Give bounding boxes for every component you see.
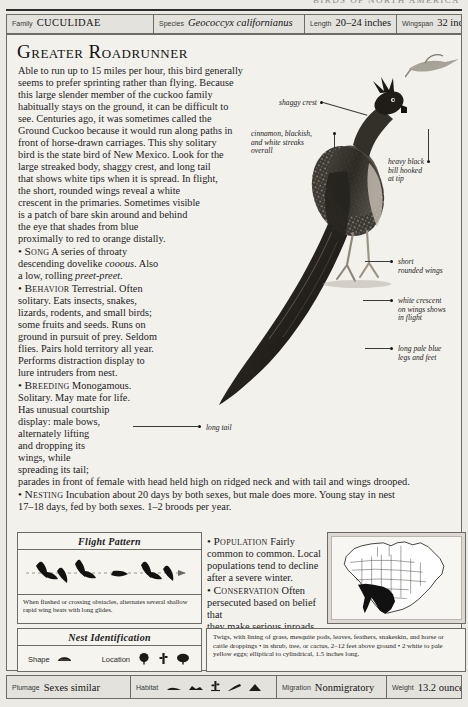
range-map bbox=[331, 536, 462, 620]
desc-line-5: see. Centuries ago, it was sometimes cal… bbox=[18, 113, 246, 125]
running-head: BIRDS OF NORTH AMERICA bbox=[0, 0, 468, 12]
spec-value-weight: 13.2 ounces bbox=[418, 682, 461, 693]
desc-line-1: Able to run up to 15 miles per hour, thi… bbox=[18, 65, 246, 77]
annotation-wings: short rounded wings bbox=[398, 258, 460, 275]
section-label-population: Population bbox=[213, 535, 267, 547]
annotation-leader-streaks bbox=[334, 135, 335, 169]
field-guide-page: BIRDS OF NORTH AMERICA Family CUCULIDAE … bbox=[0, 0, 468, 707]
section-behavior-line-4: some fruits and seeds. Runs on bbox=[18, 319, 218, 331]
desc-line-7: front of horse-drawn carriages. This shy… bbox=[18, 137, 246, 149]
desc-line-3: this large slender member of the cuckoo … bbox=[18, 89, 246, 101]
behavior-text-1: Terrestrial. Often bbox=[69, 283, 142, 294]
section-breeding-line-1: • Breeding Monogamous. bbox=[18, 379, 178, 392]
annotation-legs: long pale blue legs and feet bbox=[398, 345, 462, 362]
annotation-bill: heavy black bill hooked at tip bbox=[388, 158, 450, 184]
nest-identification-row: Shape Location bbox=[18, 646, 201, 672]
spec-cell-length: Length 20–24 inches bbox=[305, 15, 397, 33]
section-label-behavior: Behavior bbox=[24, 282, 69, 294]
spec-key-family: Family bbox=[12, 20, 33, 27]
annotation-streaks: cinnamon, blackish, and white streaks ov… bbox=[251, 130, 329, 156]
spec-cell-migration: Migration Nonmigratory bbox=[277, 676, 387, 698]
spec-value-wingspan: 32 inches bbox=[437, 17, 461, 28]
spec-key-length: Length bbox=[310, 20, 331, 27]
section-conservation-line-1: • Conservation Often bbox=[207, 584, 325, 597]
annotation-leader-long-tail bbox=[133, 426, 199, 427]
nest-shape-label: Shape bbox=[28, 655, 50, 664]
section-behavior-line-6: flies. Pairs hold territory all year. bbox=[18, 343, 218, 355]
song-bullet: • bbox=[18, 245, 22, 257]
habitat-scrub-icon bbox=[188, 678, 204, 696]
song-call-preet: preet-preet bbox=[75, 270, 120, 281]
flight-pattern-title: Flight Pattern bbox=[18, 533, 201, 550]
habitat-grassland-icon bbox=[227, 678, 242, 696]
nest-location-tree-icon bbox=[176, 652, 190, 667]
section-breeding-line-7: wings, while bbox=[18, 452, 136, 464]
desc-line-15: proximally to red to orange distally. bbox=[18, 233, 218, 245]
running-head-text: BIRDS OF NORTH AMERICA bbox=[313, 0, 460, 5]
breeding-text-1: Monogamous. bbox=[70, 380, 132, 391]
nest-identification-panel: Nest Identification Shape Location bbox=[17, 628, 202, 672]
section-label-conservation: Conservation bbox=[213, 584, 279, 596]
header-rule bbox=[6, 9, 462, 11]
section-population-line-3: populations tend to decline bbox=[207, 560, 325, 572]
section-breeding-line-3: Has unusual courtship bbox=[18, 404, 136, 416]
desc-line-2: seems to prefer sprinting rather than fl… bbox=[18, 77, 246, 89]
section-behavior-line-8: lure intruders from nest. bbox=[18, 367, 218, 379]
annotation-leader-bill bbox=[428, 129, 429, 161]
range-map-panel bbox=[327, 532, 466, 624]
nest-identification-title: Nest Identification bbox=[18, 629, 201, 646]
desc-line-10: that shows white tips when it is spread.… bbox=[18, 173, 246, 185]
behavior-bullet: • bbox=[18, 282, 22, 294]
annotation-crescent: white crescent on wings shows in flight bbox=[398, 297, 464, 323]
annotation-long-tail: long tail bbox=[206, 424, 252, 433]
section-breeding-line-6: and dropping its bbox=[18, 440, 136, 452]
section-population-line-1: • Population Fairly bbox=[207, 535, 325, 548]
nest-identification-description: Twigs, with lining of grass, mesquite po… bbox=[206, 628, 466, 672]
nesting-text-1: Incubation about 20 days by both sexes, … bbox=[63, 489, 395, 500]
spec-key-plumage: Plumage bbox=[12, 684, 40, 691]
population-bullet: • bbox=[207, 535, 211, 547]
flight-pattern-panel: Flight Pattern bbox=[17, 532, 202, 624]
spec-value-migration: Nonmigratory bbox=[315, 682, 375, 693]
section-behavior-line-1: • Behavior Terrestrial. Often bbox=[18, 282, 218, 295]
spec-cell-habitat: Habitat bbox=[131, 676, 277, 698]
section-behavior-line-5: ground in pursuit of prey. Seldom bbox=[18, 331, 218, 343]
nest-shape-icon bbox=[57, 653, 72, 665]
section-population-line-4: after a severe winter. bbox=[207, 572, 325, 584]
section-label-song: Song bbox=[24, 245, 49, 257]
section-nesting-line-2: 17–18 days, fed by both sexes. 1–2 brood… bbox=[18, 501, 463, 513]
spec-key-species: Species bbox=[159, 20, 184, 27]
annotation-leader-crescent bbox=[363, 300, 391, 301]
section-breeding-line-8: spreading its tail; bbox=[18, 464, 136, 476]
spec-key-migration: Migration bbox=[282, 684, 311, 691]
song-text-3a: a low, rolling bbox=[18, 270, 75, 281]
section-behavior-line-3: lizards, rodents, and small birds; bbox=[18, 307, 218, 319]
section-population-line-2: common to common. Local bbox=[207, 548, 325, 560]
desc-line-11: the short, rounded wings reveal a white bbox=[18, 185, 218, 197]
flight-pattern-diagram bbox=[18, 550, 201, 595]
conservation-bullet: • bbox=[207, 584, 211, 596]
nest-location-cactus-icon bbox=[158, 652, 169, 667]
description-block: Able to run up to 15 miles per hour, thi… bbox=[18, 65, 463, 513]
annotation-leader-wings bbox=[365, 261, 391, 262]
breeding-bullet: • bbox=[18, 379, 22, 391]
main-content-panel: Greater Roadrunner Able to run up to 15 … bbox=[6, 34, 462, 671]
spec-cell-plumage: Plumage Sexes similar bbox=[7, 676, 131, 698]
section-nesting-line-1: • Nesting Incubation about 20 days by bo… bbox=[18, 488, 463, 501]
spec-key-habitat: Habitat bbox=[136, 684, 158, 691]
section-behavior-line-2: solitary. Eats insects, snakes, bbox=[18, 295, 218, 307]
spec-key-weight: Weight bbox=[392, 684, 414, 691]
song-text-2b: . Also bbox=[134, 258, 158, 269]
desc-line-13: is a patch of bare skin around and behin… bbox=[18, 209, 218, 221]
annotation-leader-legs bbox=[365, 348, 391, 349]
spec-value-plumage: Sexes similar bbox=[44, 682, 100, 693]
spec-cell-family: Family CUCULIDAE bbox=[7, 15, 154, 33]
species-spec-table: Family CUCULIDAE Species Geococcyx calif… bbox=[6, 14, 462, 34]
desc-line-8: bird is the state bird of New Mexico. Lo… bbox=[18, 149, 246, 161]
section-song-line-3: a low, rolling preet-preet. bbox=[18, 270, 218, 282]
footer-spec-table: Plumage Sexes similar Habitat bbox=[6, 675, 462, 699]
section-label-nesting: Nesting bbox=[24, 488, 63, 500]
song-call-cooous: cooous bbox=[105, 258, 134, 269]
spec-value-length: 20–24 inches bbox=[335, 17, 391, 28]
desc-line-12: crescent in the primaries. Sometimes vis… bbox=[18, 197, 218, 209]
